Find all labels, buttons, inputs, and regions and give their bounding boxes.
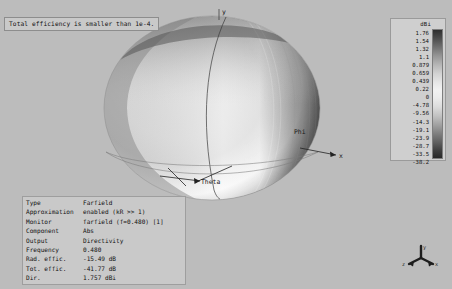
legend-tick: 0 [391, 93, 431, 101]
legend-tick: 0.22 [391, 85, 431, 93]
parameter-value: Abs [82, 226, 180, 235]
parameter-label: Rad. effic. [26, 254, 75, 263]
coordinate-axis-triad[interactable]: x z y [398, 244, 444, 284]
efficiency-warning-banner: Total efficiency is smaller than 1e-4. [4, 17, 159, 31]
parameter-label: Monitor [26, 217, 75, 226]
legend-tick: 0.439 [391, 77, 431, 85]
triad-label-y: y [423, 244, 426, 251]
legend-tick: -4.78 [391, 101, 431, 109]
parameter-label: Type [26, 198, 75, 207]
colorbar-gradient[interactable] [432, 29, 443, 159]
legend-tick: -14.3 [391, 118, 431, 126]
parameter-value: Directivity [82, 236, 180, 245]
axis-label-y: y [222, 8, 226, 16]
axis-label-x: x [339, 152, 343, 160]
legend-tick: 1.76 [391, 29, 431, 37]
parameter-value: enabled (kR >> 1) [82, 207, 180, 216]
parameter-label: Frequency [26, 245, 75, 254]
parameter-label: Tot. effic. [26, 264, 75, 273]
legend-tick: 1.54 [391, 37, 431, 45]
colorbar-legend[interactable]: dBi 1.761.541.321.10.8790.6590.4390.220-… [390, 18, 446, 161]
parameter-value: 0.480 [82, 245, 180, 254]
farfield-plot-window: y x Phi Theta Total efficiency is smalle… [0, 0, 452, 289]
legend-tick: 1.1 [391, 53, 431, 61]
legend-tick: -28.7 [391, 142, 431, 150]
triad-label-z: z [402, 261, 405, 267]
legend-tick: -23.9 [391, 134, 431, 142]
farfield-parameter-table: TypeApproximationMonitorComponentOutputF… [22, 196, 186, 285]
parameter-label: Approximation [26, 207, 75, 216]
legend-tick: 0.659 [391, 69, 431, 77]
legend-tick: 0.879 [391, 61, 431, 69]
legend-unit-label: dBi [391, 21, 431, 27]
parameter-label-column: TypeApproximationMonitorComponentOutputF… [22, 196, 78, 285]
parameter-value: -15.49 dB [82, 254, 180, 263]
parameter-value: 1.757 dBi [82, 273, 180, 282]
legend-tick: -33.5 [391, 150, 431, 158]
parameter-label: Dir. [26, 273, 75, 282]
pattern-surface [104, 16, 322, 200]
parameter-value: -41.77 dB [82, 264, 180, 273]
parameter-value: Farfield [82, 198, 180, 207]
legend-tick-list: 1.761.541.321.10.8790.6590.4390.220-4.78… [391, 29, 431, 166]
axis-label-phi: Phi [294, 128, 306, 136]
triad-label-x: x [435, 261, 438, 267]
triad-icon: x z y [398, 244, 444, 284]
parameter-label: Output [26, 236, 75, 245]
parameter-value-column: Farfieldenabled (kR >> 1)farfield (f=0.4… [78, 196, 186, 285]
parameter-value: farfield (f=0.480) [1] [82, 217, 180, 226]
axis-label-theta: Theta [201, 178, 220, 186]
legend-tick: 1.32 [391, 45, 431, 53]
legend-tick: -38.2 [391, 158, 431, 166]
legend-tick: -9.56 [391, 109, 431, 117]
legend-tick: -19.1 [391, 126, 431, 134]
parameter-label: Component [26, 226, 75, 235]
